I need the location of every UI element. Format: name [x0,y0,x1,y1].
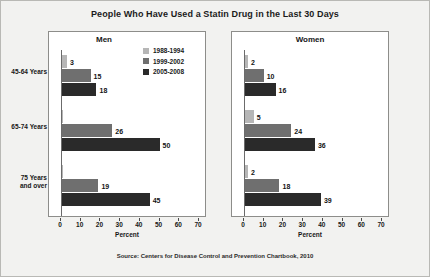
x-axis-tick-label: 10 [259,221,266,228]
x-axis-tick-label: 60 [358,221,365,228]
bar-value-label: 10 [264,72,275,79]
x-axis-tick-label: 30 [116,221,123,228]
x-axis-tick-label: 20 [279,221,286,228]
x-axis-title-men: Percent [48,231,206,238]
category-label: 75 Yearsand over [3,174,47,189]
category-label-line: 65-74 Years [3,123,47,131]
bar-value-label: 26 [112,127,123,134]
category-label-line: 75 Years [3,174,47,182]
bar-row: 18 [61,83,205,96]
bar-group: 2650 [49,107,205,159]
panel-heading-men: Men [49,35,205,44]
bar-row: 3 [61,55,205,68]
bar[interactable] [61,193,150,206]
bar[interactable] [61,83,96,96]
x-axis-tick-label: 60 [175,221,182,228]
bar[interactable] [244,138,315,151]
x-axis-tick-label: 0 [58,221,62,228]
panel-men: Men 1988-19941999-20022005-2008 31518265… [48,31,206,217]
bar[interactable] [61,138,160,151]
source-note: Source: Centers for Disease Control and … [1,253,429,259]
bar-row: 39 [244,193,388,206]
x-axis-tick-label: 20 [96,221,103,228]
x-axis-tick-label: 40 [135,221,142,228]
plot-area-women: 210165243621839 [232,50,388,216]
bar[interactable] [244,179,279,192]
bar-row: 18 [244,179,388,192]
x-axis-ticks-women: 010203040506070 [231,218,389,230]
value-axis-line [61,50,62,216]
x-axis-tick-label: 70 [194,221,201,228]
bar-value-label: 3 [67,58,74,65]
bar-row: 2 [244,55,388,68]
bar[interactable] [244,69,264,82]
bar-row [61,110,205,123]
bar-value-label: 2 [248,58,255,65]
bar-group: 21016 [232,52,388,104]
bar-row: 19 [61,179,205,192]
bar[interactable] [61,124,112,137]
bar-value-label: 39 [321,196,332,203]
bar-value-label: 2 [248,168,255,175]
bar-row: 45 [61,193,205,206]
bar-row: 2 [244,165,388,178]
bar-row: 36 [244,138,388,151]
bar-value-label: 45 [150,196,161,203]
bar-value-label: 16 [276,86,287,93]
x-axis-tick-label: 40 [318,221,325,228]
panel-heading-women: Women [232,35,388,44]
category-axis-labels: 45-64 Years65-74 Years75 Yearsand over [3,31,47,216]
bar[interactable] [61,69,91,82]
x-axis-ticks-men: 010203040506070 [48,218,206,230]
bar-value-label: 36 [315,141,326,148]
bar-value-label: 24 [291,127,302,134]
bar-value-label: 5 [254,113,261,120]
bar-value-label: 18 [279,182,290,189]
x-axis-tick-label: 70 [377,221,384,228]
x-axis-tick-label: 50 [155,221,162,228]
bar-row: 50 [61,138,205,151]
x-axis-tick-label: 0 [241,221,245,228]
bar-group: 21839 [232,162,388,214]
bar[interactable] [244,83,276,96]
bar-value-label: 50 [160,141,171,148]
bar[interactable] [61,179,98,192]
category-label-line: 45-64 Years [3,68,47,76]
bar-row: 16 [244,83,388,96]
x-axis-title-women: Percent [231,231,389,238]
bar-row: 5 [244,110,388,123]
category-label: 65-74 Years [3,123,47,131]
statin-use-chart-figure: People Who Have Used a Statin Drug in th… [0,0,430,277]
x-axis-tick-label: 50 [338,221,345,228]
bar-row: 10 [244,69,388,82]
chart-title: People Who Have Used a Statin Drug in th… [1,9,429,19]
category-label: 45-64 Years [3,68,47,76]
category-label-line: and over [3,182,47,190]
bar-row: 26 [61,124,205,137]
bar-value-label: 18 [96,86,107,93]
bar-value-label: 15 [91,72,102,79]
x-axis-tick-label: 10 [76,221,83,228]
panel-women: Women 210165243621839 [231,31,389,217]
bar-row: 15 [61,69,205,82]
bar-row: 24 [244,124,388,137]
value-axis-line [244,50,245,216]
bar-group: 31518 [49,52,205,104]
x-axis-men: 010203040506070 Percent [48,218,206,242]
bar-value-label: 19 [98,182,109,189]
plot-area-men: 3151826501945 [49,50,205,216]
bar-group: 1945 [49,162,205,214]
bar-group: 52436 [232,107,388,159]
x-axis-tick-label: 30 [299,221,306,228]
bar[interactable] [244,110,254,123]
x-axis-women: 010203040506070 Percent [231,218,389,242]
bar-row [61,165,205,178]
bar[interactable] [244,193,321,206]
bar[interactable] [244,124,291,137]
